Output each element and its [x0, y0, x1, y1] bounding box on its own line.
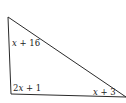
angle-label-bottom-left: 2x + 1	[13, 83, 41, 93]
angle-label-bottom-right: x + 3	[93, 87, 116, 97]
triangle-diagram: x + 16 2x + 1 x + 3	[0, 0, 126, 103]
angle-label-top: x + 16	[12, 38, 40, 48]
